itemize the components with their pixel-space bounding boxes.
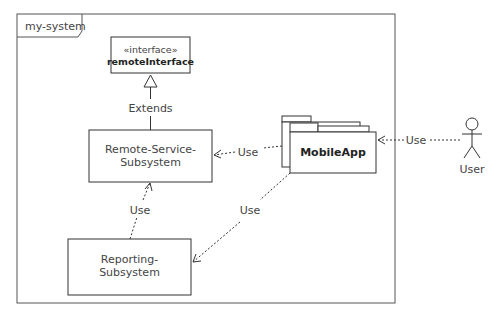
reporting-label-line1: Reporting- [101, 253, 158, 266]
interface-stereotype: «interface» [124, 44, 178, 55]
actor-head-icon [466, 118, 478, 130]
extends-label: Extends [128, 102, 172, 115]
mobileapp-name: MobileApp [300, 146, 366, 159]
interface-name: remoteInterface [107, 56, 194, 67]
component-reporting-subsystem[interactable]: Reporting- Subsystem [68, 239, 191, 295]
remote-service-label-line2: Subsystem [120, 156, 181, 169]
use-mobileapp-to-reporting: Use [193, 173, 290, 262]
use-label: Use [238, 146, 259, 159]
use-user-to-mobileapp: Use [378, 134, 460, 147]
use-mobileapp-to-remote-service: Use [214, 146, 282, 159]
use-label: Use [130, 204, 151, 217]
use-label: Use [406, 134, 427, 147]
extends-relation: Extends [128, 75, 172, 130]
open-arrow-icon [145, 183, 152, 191]
use-label: Use [240, 204, 261, 217]
actor-name: User [459, 163, 485, 176]
interface-remoteinterface[interactable]: «interface» remoteInterface [107, 37, 194, 73]
uml-diagram-canvas: my-system «interface» remoteInterface Ex… [0, 0, 498, 311]
generalization-arrow-icon [144, 75, 157, 87]
use-reporting-to-remote-service: Use [130, 183, 152, 239]
package-mobileapp[interactable]: MobileApp [282, 116, 376, 173]
actor-user[interactable]: User [459, 118, 485, 176]
reporting-label-line2: Subsystem [99, 266, 160, 279]
component-remote-service-subsystem[interactable]: Remote-Service- Subsystem [89, 130, 212, 182]
frame-title: my-system [25, 20, 86, 33]
remote-service-label-line1: Remote-Service- [105, 143, 196, 156]
